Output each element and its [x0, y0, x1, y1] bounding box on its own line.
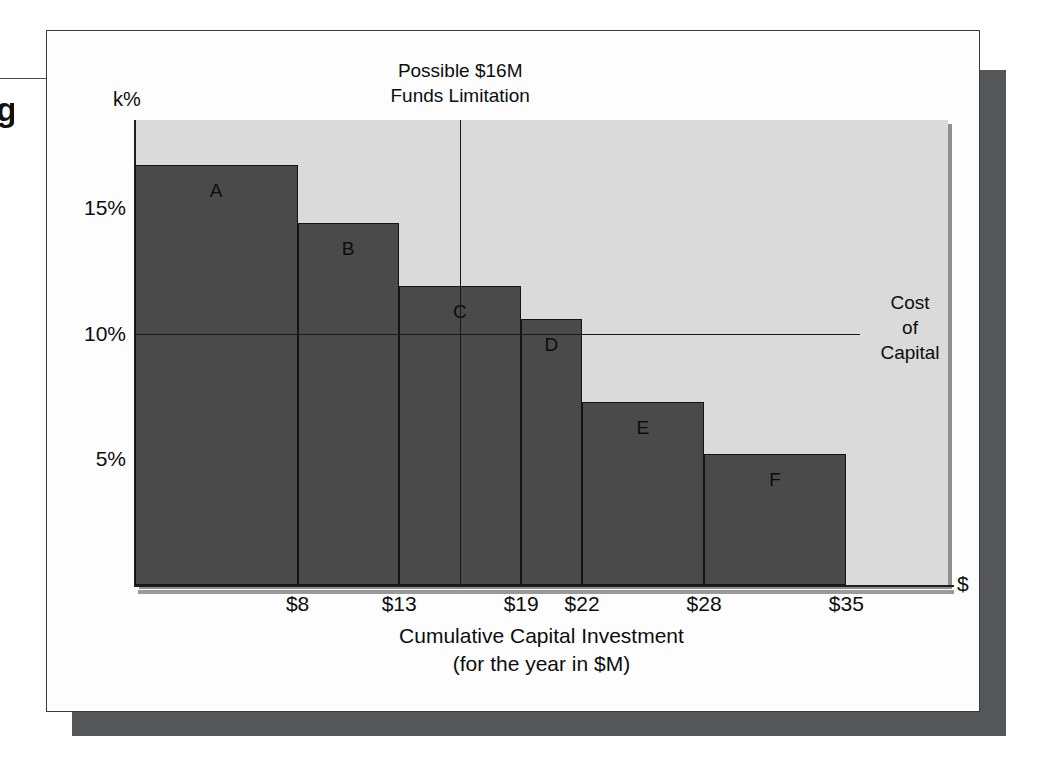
funds-limitation-label: Possible $16M Funds Limitation — [330, 58, 590, 108]
cost-of-capital-line2: of — [855, 315, 965, 340]
x-tick-d13: $13 — [382, 592, 417, 616]
y-axis-ticks: 5%10%15% — [48, 0, 126, 771]
x-tick-d22: $22 — [565, 592, 600, 616]
y-tick-15pct: 15% — [56, 196, 126, 220]
bar-label-b: B — [342, 238, 355, 260]
x-tick-d35: $35 — [829, 592, 864, 616]
bar-label-a: A — [210, 180, 223, 202]
bar-label-d: D — [545, 334, 559, 356]
x-axis-title: Cumulative Capital Investment (for the y… — [135, 622, 948, 678]
x-axis-title-line1: Cumulative Capital Investment — [135, 622, 948, 650]
x-tick-d8: $8 — [286, 592, 309, 616]
page-shadow-bottom — [72, 712, 1006, 736]
bleed-rule — [0, 78, 47, 79]
x-tick-d28: $28 — [687, 592, 722, 616]
bar-d — [521, 319, 582, 585]
cost-of-capital-line1: Cost — [855, 290, 965, 315]
x-axis-title-line2: (for the year in $M) — [135, 650, 948, 678]
bar-label-f: F — [769, 469, 781, 491]
cost-of-capital-label: Cost of Capital — [855, 290, 965, 365]
cost-of-capital-line3: Capital — [855, 340, 965, 365]
x-axis-line — [134, 585, 954, 587]
page-shadow-right — [980, 70, 1006, 736]
bar-a — [135, 165, 298, 585]
y-tick-5pct: 5% — [56, 447, 126, 471]
bleed-glyph: g — [0, 86, 14, 132]
funds-limitation-line1: Possible $16M — [330, 58, 590, 83]
y-tick-10pct: 10% — [56, 322, 126, 346]
x-axis-end-label: $ — [957, 572, 969, 596]
bar-label-e: E — [637, 417, 650, 439]
cost-of-capital-line — [135, 334, 860, 335]
funds-limitation-line — [460, 120, 461, 585]
bar-b — [298, 223, 400, 585]
funds-limitation-line2: Funds Limitation — [330, 83, 590, 108]
x-tick-d19: $19 — [504, 592, 539, 616]
